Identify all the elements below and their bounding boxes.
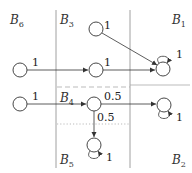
node-b3-mid bbox=[89, 63, 103, 77]
node-b5 bbox=[87, 138, 101, 152]
weight-b6top-b3mid: 1 bbox=[32, 56, 39, 69]
node-b6-bottom bbox=[13, 97, 27, 111]
weight-loop-b1: 1 bbox=[176, 48, 183, 61]
block-label-b6: B6 bbox=[9, 13, 24, 29]
weight-loop-b2: 1 bbox=[176, 111, 183, 124]
markov-chain-diagram: B6 B3 B1 B4 B5 B2 1 1 1 1 1 0.5 0.5 1 1 bbox=[0, 0, 192, 173]
node-b6-top bbox=[13, 63, 27, 77]
weight-b3mid-b1: 1 bbox=[104, 56, 111, 69]
weight-loop-b5: 1 bbox=[106, 151, 113, 164]
node-b1 bbox=[156, 62, 170, 76]
block-label-b2: B2 bbox=[171, 153, 186, 169]
weight-b4-b5: 0.5 bbox=[97, 111, 115, 124]
block-label-b1: B1 bbox=[171, 13, 186, 29]
node-b4 bbox=[87, 97, 101, 111]
diagram-canvas: B6 B3 B1 B4 B5 B2 1 1 1 1 1 0.5 0.5 1 1 bbox=[0, 0, 192, 173]
node-b2 bbox=[157, 98, 171, 112]
block-label-b4: B4 bbox=[59, 91, 74, 107]
block-label-b3: B3 bbox=[59, 13, 74, 29]
weight-b4-b2: 0.5 bbox=[104, 90, 122, 103]
weight-b3top-b1: 1 bbox=[104, 19, 111, 32]
weight-b6bottom-b4: 1 bbox=[32, 90, 39, 103]
block-label-b5: B5 bbox=[59, 153, 74, 169]
node-b3-top bbox=[89, 22, 103, 36]
